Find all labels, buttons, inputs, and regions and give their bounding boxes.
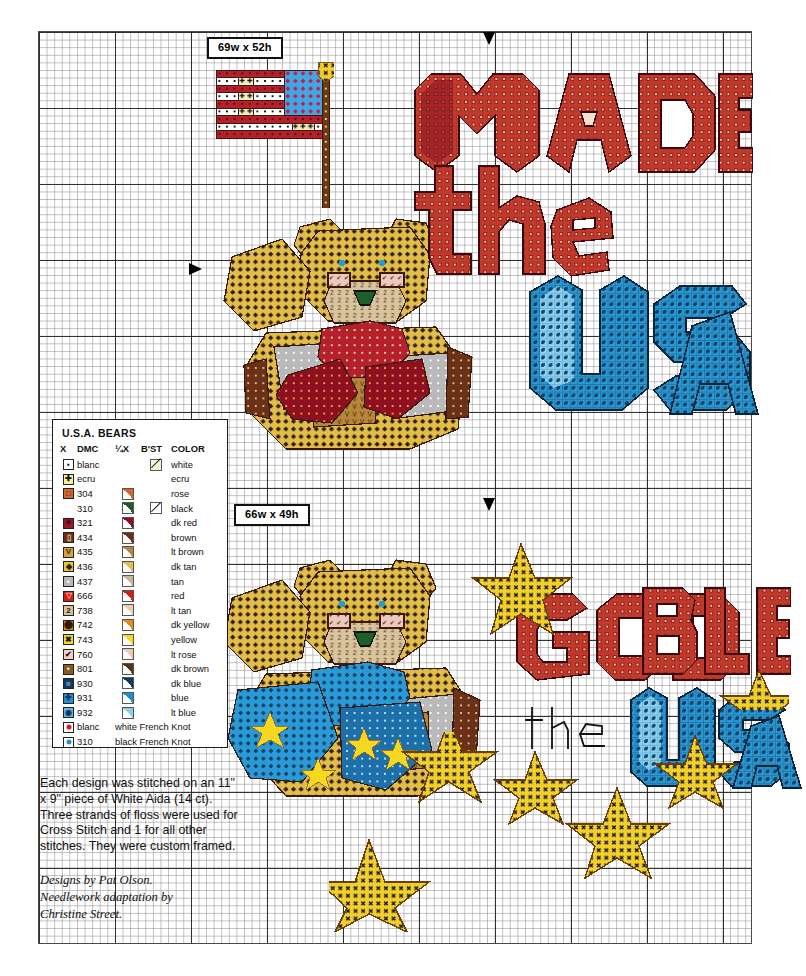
legend-color-name: dk yellow [171, 618, 220, 633]
legend-title: U.S.A. BEARS [62, 427, 220, 439]
legend-color-name: yellow [171, 632, 220, 647]
french-knot-label: white French Knot [115, 720, 220, 735]
stitch-symbol-icon: ✚ [63, 693, 74, 704]
legend-dmc-number: 760 [77, 647, 115, 662]
legend-backstitch-swatch [141, 559, 171, 574]
legend-dmc-number: 435 [77, 545, 115, 560]
quarter-stitch-icon [122, 488, 134, 500]
legend-symbol-cell [60, 501, 77, 516]
legend-backstitch-swatch [141, 632, 171, 647]
top-center-arrow-design-2 [483, 498, 495, 511]
legend-symbol-cell: ▪ [60, 661, 77, 676]
legend-row: ▽666red [60, 588, 220, 603]
legend-symbol-cell: ◉ [60, 705, 77, 720]
legend-backstitch-swatch [141, 530, 171, 545]
legend-header-dmc: DMC [77, 443, 115, 457]
stitch-symbol-icon: □ [63, 488, 74, 499]
legend-dmc-number: 742 [77, 618, 115, 633]
legend-color-name: rose [171, 486, 220, 501]
stitch-symbol-icon: ◆ [63, 561, 74, 572]
legend-color-name: dk blue [171, 676, 220, 691]
stitching-notes: Each design was stitched on an 11" x 9" … [40, 776, 240, 855]
design-2-size-tag: 66w x 49h [234, 504, 310, 526]
legend-header-quarter: ¼X [115, 443, 141, 457]
stitch-symbol-icon: ✔ [63, 649, 74, 660]
legend-dmc-number: ecru [77, 472, 115, 487]
legend-quarter-stitch-swatch [115, 530, 141, 545]
legend-color-name: white [171, 457, 220, 472]
legend-backstitch-swatch [141, 588, 171, 603]
legend-quarter-stitch-swatch [115, 661, 141, 676]
legend-quarter-stitch-swatch [115, 574, 141, 589]
legend-quarter-stitch-swatch [115, 457, 141, 472]
legend-row: □304rose [60, 486, 220, 501]
legend-row: ✶321dk red [60, 515, 220, 530]
legend-dmc-number: 310 [77, 501, 115, 516]
stitch-symbol-icon: ▪ [63, 664, 74, 675]
french-knot-label: black French Knot [115, 734, 220, 749]
legend-symbol-cell: ✶ [60, 515, 77, 530]
quarter-stitch-icon [122, 561, 134, 573]
quarter-stitch-icon [122, 619, 134, 631]
legend-dmc-number: 437 [77, 574, 115, 589]
motif-stars-cluster: ✖ [329, 732, 749, 932]
motif-word-made-e-and-in [717, 60, 753, 190]
french-knot-dmc-number: blanc [77, 720, 115, 735]
legend-backstitch-swatch [141, 618, 171, 633]
legend-color-name: ecru [171, 472, 220, 487]
legend-dmc-number: 434 [77, 530, 115, 545]
legend-table: X DMC ¼X B'ST COLOR ▪blancwhite✚ecruecru… [60, 443, 220, 749]
legend-symbol-cell: □ [60, 486, 77, 501]
legend-row: ✔760lt rose [60, 647, 220, 662]
legend-row: ◆436dk tan [60, 559, 220, 574]
legend-backstitch-swatch [141, 545, 171, 560]
stitch-symbol-icon: ⬤ [63, 620, 74, 631]
design-credits: Designs by Pat Olson. Needlework adaptat… [40, 872, 250, 923]
legend-symbol-cell: ✔ [60, 647, 77, 662]
legend-color-name: dk brown [171, 661, 220, 676]
stitch-symbol-icon: ✖ [63, 634, 74, 645]
legend-quarter-stitch-swatch [115, 472, 141, 487]
color-key-legend: U.S.A. BEARS X DMC ¼X B'ST COLOR ▪blancw… [52, 419, 228, 748]
legend-backstitch-swatch [141, 501, 171, 516]
quarter-stitch-icon [122, 707, 134, 719]
legend-color-name: blue [171, 691, 220, 706]
legend-backstitch-swatch [141, 486, 171, 501]
quarter-stitch-icon [122, 532, 134, 544]
legend-color-name: lt blue [171, 705, 220, 720]
stitch-symbol-icon: V [63, 547, 74, 558]
french-knot-icon [63, 737, 74, 748]
legend-symbol-cell: ⬤ [60, 618, 77, 633]
legend-quarter-stitch-swatch [115, 559, 141, 574]
legend-dmc-number: 666 [77, 588, 115, 603]
legend-symbol-cell: ▪ [60, 457, 77, 472]
quarter-stitch-icon [122, 663, 134, 675]
stitch-symbol-icon: ◉ [63, 707, 74, 718]
french-knot-symbol-cell [60, 720, 77, 735]
quarter-stitch-icon [122, 590, 134, 602]
legend-row: ✚931blue [60, 691, 220, 706]
legend-backstitch-swatch [141, 647, 171, 662]
legend-header-row: X DMC ¼X B'ST COLOR [60, 443, 220, 457]
quarter-stitch-icon [122, 502, 134, 514]
backstitch-icon [150, 459, 162, 471]
quarter-stitch-icon [122, 648, 134, 660]
legend-symbol-cell: V [60, 545, 77, 560]
legend-backstitch-swatch [141, 603, 171, 618]
legend-row: ✚ecruecru [60, 472, 220, 487]
motif-word-usa-blue-1 [524, 270, 774, 420]
legend-dmc-number: 743 [77, 632, 115, 647]
legend-color-name: red [171, 588, 220, 603]
legend-symbol-cell: ✚ [60, 691, 77, 706]
quarter-stitch-icon [122, 634, 134, 646]
legend-quarter-stitch-swatch [115, 603, 141, 618]
legend-quarter-stitch-swatch [115, 618, 141, 633]
legend-quarter-stitch-swatch [115, 691, 141, 706]
stitch-symbol-icon: ▪ [63, 459, 74, 470]
legend-row: ▪437tan [60, 574, 220, 589]
stitch-symbol-icon: ▽ [63, 591, 74, 602]
legend-quarter-stitch-swatch [115, 501, 141, 516]
legend-dmc-number: 738 [77, 603, 115, 618]
motif-american-flag: ✚ ✖ [208, 62, 334, 208]
legend-header-symbol: X [60, 443, 77, 457]
